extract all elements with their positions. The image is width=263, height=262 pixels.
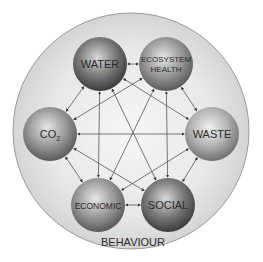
subscript: 2 xyxy=(56,135,60,142)
node-label: ECOSYSTEM xyxy=(141,55,192,64)
node-co2: CO2 xyxy=(23,107,77,161)
node-sphere xyxy=(139,37,193,91)
node-label: WATER xyxy=(81,58,120,70)
node-social: SOCIAL xyxy=(141,178,195,232)
node-label: WASTE xyxy=(193,128,232,140)
behaviour-label: BEHAVIOUR xyxy=(101,236,165,248)
node-label-line2: HEALTH xyxy=(151,65,182,74)
diagram-canvas: WATERECOSYSTEMHEALTHCO2WASTEECONOMICSOCI… xyxy=(0,0,263,262)
node-label: SOCIAL xyxy=(148,199,188,211)
node-ecosystem: ECOSYSTEMHEALTH xyxy=(139,37,193,91)
node-waste: WASTE xyxy=(185,107,239,161)
node-economic: ECONOMIC xyxy=(71,178,125,232)
node-label: ECONOMIC xyxy=(75,201,122,211)
node-water: WATER xyxy=(73,37,127,91)
